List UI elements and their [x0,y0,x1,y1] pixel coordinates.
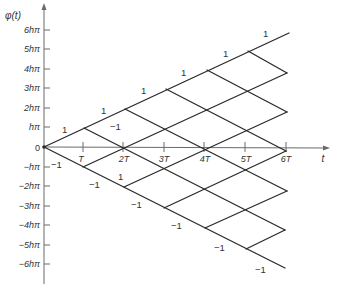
edge-label: 1 [263,28,268,39]
y-tick-label: 6hπ [24,25,41,35]
y-tick-labels: φ(t) 6hπ 5hπ 4hπ 3hπ 2hπ hπ 0 −hπ −2hπ −… [5,10,41,269]
edge-label: −1 [255,264,266,275]
y-tick-label: −4hπ [19,220,41,230]
x-tick-label: 6T [281,154,293,164]
phase-trellis-diagram: φ(t) 6hπ 5hπ 4hπ 3hπ 2hπ hπ 0 −hπ −2hπ −… [0,0,343,294]
axes [42,3,331,284]
y-tick-label: 3hπ [24,83,41,93]
edge-label: −1 [214,242,225,253]
x-tick-label: 5T [241,154,253,164]
edge-label: 1 [62,124,67,135]
edge-label: −1 [89,179,100,190]
y-tick-label: 2hπ [23,103,41,113]
y-tick-label: −6hπ [19,259,41,269]
origin-point [42,145,46,149]
x-tick-labels: T 2T 3T 4T 5T 6T t [78,153,325,164]
edge-label: −1 [131,199,142,210]
x-tick-label: 3T [159,154,171,164]
y-tick-label: −2hπ [19,181,41,191]
y-axis-title: φ(t) [5,10,21,21]
edge-label: 1 [118,171,123,182]
y-tick-label: 4hπ [24,64,41,74]
edge-label: 1 [181,67,186,78]
x-axis [44,147,326,148]
edge-labels: 1 1 1 1 1 1 −1 1 −1 −1 −1 −1 −1 −1 [51,28,268,275]
y-tick-label: −3hπ [19,201,41,211]
x-axis-title: t [322,153,326,164]
y-tick-label: 0 [35,143,40,153]
trellis-paths [44,33,289,268]
y-tick-label: −hπ [24,162,41,172]
x-tick-label: T [78,154,85,164]
edge-label: 1 [223,48,228,59]
y-axis-arrow-icon [42,3,47,10]
x-tick-label: 2T [118,154,131,164]
edge-label: −1 [171,220,182,231]
x-axis-arrow-icon [323,146,330,151]
y-tick-label: 5hπ [24,44,41,54]
x-tick-label: 4T [200,154,212,164]
edge-label: −1 [51,159,62,170]
edge-label: −1 [110,121,121,132]
y-tick-label: −5hπ [19,240,41,250]
y-tick-label: hπ [29,122,41,132]
edge-label: 1 [141,85,146,96]
edge-label: 1 [101,105,106,116]
